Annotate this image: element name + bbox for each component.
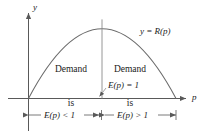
revenue-elasticity-figure: y p y = R(p) Demand is inelastic. Demand… — [0, 0, 208, 133]
inelastic-line-2: is — [44, 98, 98, 109]
inelastic-line-1: Demand — [44, 64, 98, 75]
right-span-label: E(p) > 1 — [117, 110, 148, 121]
left-span-label: E(p) < 1 — [44, 110, 75, 121]
inelastic-line-3: inelastic. — [44, 132, 98, 133]
midpoint-elasticity-label: E(p) = 1 — [108, 80, 139, 91]
x-axis-label: p — [192, 92, 197, 103]
curve-equation-label: y = R(p) — [140, 26, 171, 37]
elastic-line-1: Demand — [104, 64, 156, 75]
y-axis-label: y — [33, 2, 37, 13]
elastic-line-2: is — [104, 98, 156, 109]
elastic-line-3: elastic. — [104, 132, 156, 133]
